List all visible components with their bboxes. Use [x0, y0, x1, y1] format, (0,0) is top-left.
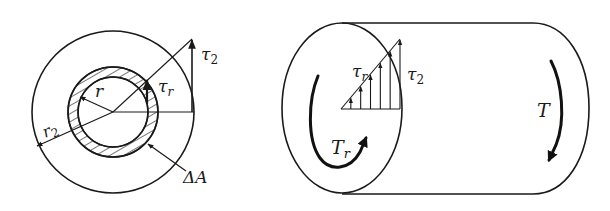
cross-section-view: τ2 τr r r2 ΔA	[32, 31, 218, 193]
label-tau2-right: τ2	[407, 64, 424, 87]
label-tau-r-left: τr	[158, 76, 174, 99]
shaft-view: τr τ2 Tr T	[282, 23, 589, 194]
label-t: T	[537, 99, 551, 121]
label-delta-a: ΔA	[182, 167, 208, 187]
torsion-diagram: τ2 τr r r2 ΔA τr τ2	[0, 0, 610, 211]
label-tau-r-right: τr	[352, 61, 368, 84]
label-r2: r2	[39, 118, 61, 143]
label-tau2-left: τ2	[201, 44, 218, 67]
t-moment-arrow	[549, 61, 562, 160]
stress-triangle	[341, 39, 400, 109]
label-t-r: Tr	[331, 136, 351, 161]
label-r: r	[95, 81, 104, 101]
